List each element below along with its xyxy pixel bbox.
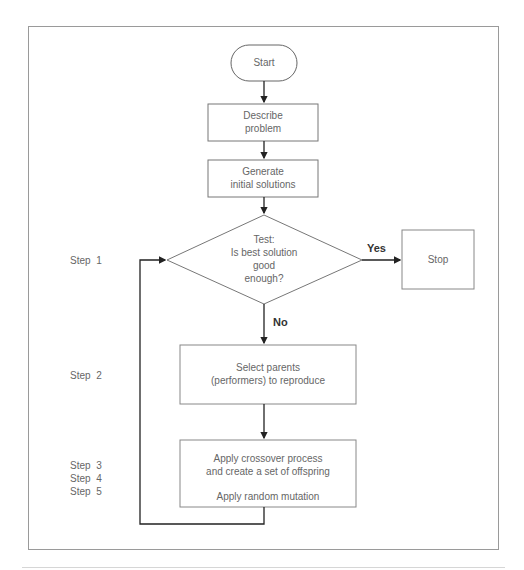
step-3-label: Step 3	[70, 459, 102, 472]
test-line2: Is best solution	[204, 246, 324, 259]
step-1-label: Step 1	[70, 254, 102, 267]
describe-label: Describe problem	[208, 109, 318, 135]
step-2-label: Step 2	[70, 369, 102, 382]
generate-line1: Generate	[208, 165, 318, 178]
apply-line1: Apply crossover process	[180, 452, 356, 465]
step-4-label: Step 4	[70, 472, 102, 485]
generate-line2: initial solutions	[208, 178, 318, 191]
yes-edge-label: Yes	[367, 242, 386, 254]
start-label: Start	[231, 56, 297, 69]
apply-line2: and create a set of offspring	[180, 465, 356, 478]
apply-label: Apply crossover process and create a set…	[180, 452, 356, 503]
generate-label: Generate initial solutions	[208, 165, 318, 191]
stop-label: Stop	[402, 253, 474, 266]
test-label: Test: Is best solution good enough?	[204, 233, 324, 285]
select-line1: Select parents	[180, 361, 356, 374]
step-5-label: Step 5	[70, 485, 102, 498]
describe-line2: problem	[208, 122, 318, 135]
apply-line3: Apply random mutation	[180, 490, 356, 503]
select-line2: (performers) to reproduce	[180, 374, 356, 387]
test-line4: enough?	[204, 272, 324, 285]
test-line1: Test:	[204, 233, 324, 246]
describe-line1: Describe	[208, 109, 318, 122]
select-label: Select parents (performers) to reproduce	[180, 361, 356, 387]
test-line3: good	[204, 259, 324, 272]
no-edge-label: No	[273, 316, 288, 328]
